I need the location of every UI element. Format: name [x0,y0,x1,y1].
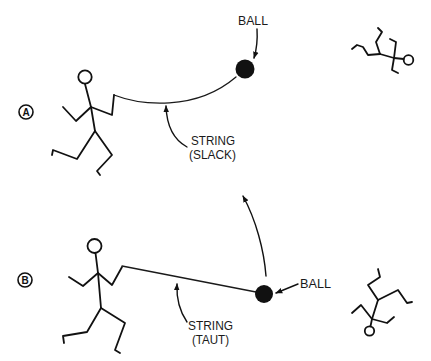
ball-label-a: BALL [238,13,268,28]
figure-leg-2 [376,28,382,54]
badge-label-a: A [22,107,29,118]
string-pointer-arrow-a [166,106,187,147]
figure-leg-1 [368,269,380,300]
ball-pointer-arrow-a [254,29,257,58]
string-ball-diagram: A BALL STRING (SLACK) B [0,0,431,361]
figure-torso [380,54,404,59]
figure-right-arm [91,95,114,115]
stick-figure-runner-b [63,239,125,353]
string-label-b-line1: STRING [188,318,233,333]
figure-arm-1 [352,305,372,319]
figure-head [88,239,102,253]
badge-label-b: B [21,275,28,286]
string-label-a-line2: (SLACK) [189,147,236,162]
figure-left-arm [69,273,98,286]
figure-left-leg [63,308,101,343]
string-taut [122,266,256,292]
panel-b-badge: B [18,273,32,287]
stick-figure-tumbling-a [352,28,413,73]
figure-right-arm [98,267,122,285]
figure-leg-2 [378,290,412,303]
string-label-a-line1: STRING [191,133,235,148]
ball-label-b: BALL [300,276,331,291]
panel-b: B BALL STRING (TAUT) [18,196,412,353]
figure-head [78,70,91,83]
figure-left-arm [63,107,91,121]
figure-arms [390,39,398,73]
figure-torso [371,300,379,326]
ball-a [236,60,255,79]
ball-pointer-arrow-b [276,284,298,293]
panel-a: A BALL STRING (SLACK) [19,13,413,175]
string-label-b-line2: (TAUT) [192,332,229,347]
figure-right-leg [101,308,125,353]
release-trajectory-arrow [243,196,266,276]
panel-a-badge: A [19,105,33,119]
figure-leg-1 [352,45,380,55]
ball-b [255,285,273,303]
string-slack [114,77,236,103]
figure-torso [96,253,102,308]
stick-figure-tumbling-b [352,269,412,336]
string-pointer-arrow-b [177,284,187,322]
figure-left-leg [52,131,95,159]
stick-figure-runner-a [52,70,114,175]
figure-arm-2 [372,317,394,323]
figure-head [365,326,374,335]
figure-head [404,55,414,65]
figure-right-leg [95,131,112,175]
